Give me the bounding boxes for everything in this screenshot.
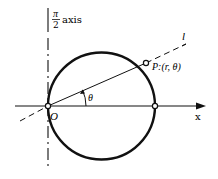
- x-axis-arrowhead-icon: [196, 103, 206, 110]
- vertical-axis-label-numerator: π: [53, 8, 59, 19]
- origin-point-marker: [45, 103, 50, 108]
- vertical-axis-label-suffix: axis: [62, 14, 82, 25]
- x-axis-label: x: [195, 111, 201, 122]
- line-l-lower: [20, 106, 48, 121]
- line-l-tick: [182, 44, 186, 46]
- polar-diagram: π 2 axis l P:(r, θ) O θ x: [0, 0, 218, 179]
- point-P-label: P:(r, θ): [151, 61, 181, 73]
- vertical-axis-label-denominator: 2: [53, 20, 59, 30]
- origin-label: O: [50, 110, 58, 122]
- theta-label: θ: [88, 92, 93, 103]
- right-intersection-marker: [152, 103, 157, 108]
- point-P-marker: [143, 60, 148, 65]
- line-l-label: l: [182, 30, 185, 42]
